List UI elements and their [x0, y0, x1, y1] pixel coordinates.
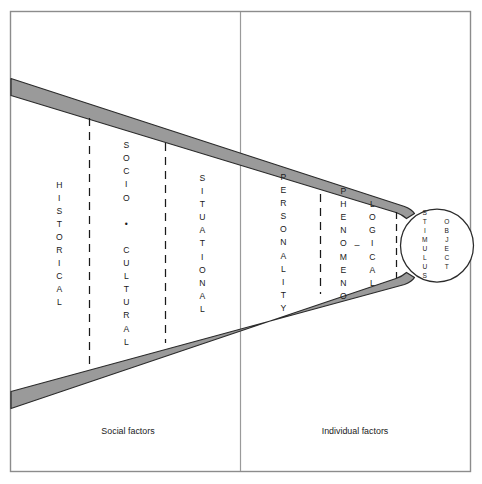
stimulus-object-circle [401, 209, 474, 282]
perception-funnel-diagram: HISTORICAL SOCIO • CULTURAL SITUATIONAL … [0, 0, 482, 484]
footer-social-factors: Social factors [101, 426, 154, 436]
label-historical: HISTORICAL [55, 180, 64, 311]
label-phenomeno: PHENOMENO [339, 186, 348, 304]
label-stimulus: STIMULUS [421, 209, 428, 280]
label-socio-cultural: SOCIO • CULTURAL [122, 140, 131, 350]
funnel-graphic [0, 0, 482, 484]
label-phenomeno-logical-hyphen: – [354, 240, 359, 250]
footer-individual-factors: Individual factors [322, 426, 389, 436]
label-situational: SITUATIONAL [198, 173, 207, 317]
label-object: OBJECT [443, 218, 450, 271]
label-personality: PERSONALITY [279, 172, 288, 316]
label-logical: LOGICAL [368, 199, 377, 291]
